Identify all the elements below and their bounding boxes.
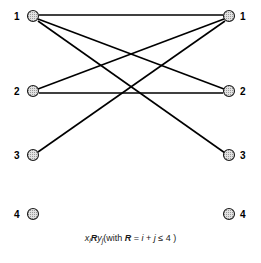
left-node-3[interactable] bbox=[28, 150, 39, 161]
left-node-label-2: 2 bbox=[14, 87, 20, 97]
caption-equals: = bbox=[131, 233, 141, 243]
bipartite-graph-canvas bbox=[0, 0, 261, 263]
left-node-1[interactable] bbox=[28, 11, 39, 22]
right-node-label-2: 2 bbox=[240, 87, 246, 97]
left-node-4[interactable] bbox=[28, 209, 39, 220]
left-node-label-3: 3 bbox=[14, 151, 20, 161]
right-node-label-1: 1 bbox=[240, 12, 246, 22]
right-node-4[interactable] bbox=[224, 209, 235, 220]
caption-close-paren: ) bbox=[171, 233, 177, 243]
node-layer bbox=[28, 11, 235, 220]
left-node-2[interactable] bbox=[28, 86, 39, 97]
right-node-1[interactable] bbox=[224, 11, 235, 22]
right-node-2[interactable] bbox=[224, 86, 235, 97]
right-node-label-4: 4 bbox=[240, 210, 246, 220]
left-node-label-1: 1 bbox=[14, 12, 20, 22]
caption-plus: + bbox=[144, 233, 154, 243]
caption-leq: ≤ bbox=[156, 233, 166, 243]
caption-open-paren: (with bbox=[103, 233, 125, 243]
relation-digraph-figure: 12341234 xiRyj(with R = i + j ≤ 4 ) bbox=[0, 0, 261, 263]
right-node-label-3: 3 bbox=[240, 151, 246, 161]
figure-caption: xiRyj(with R = i + j ≤ 4 ) bbox=[0, 233, 261, 244]
edge-layer bbox=[38, 15, 225, 153]
right-node-3[interactable] bbox=[224, 150, 235, 161]
left-node-label-4: 4 bbox=[14, 210, 20, 220]
